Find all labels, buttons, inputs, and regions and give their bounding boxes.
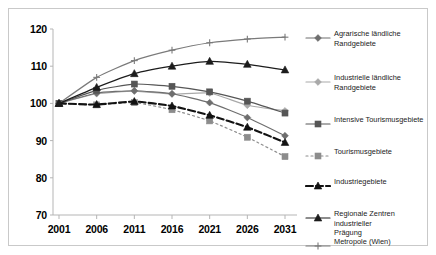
legend-label-line: Metropole (Wien) (334, 237, 391, 247)
x-tick-2026: 2026 (227, 223, 267, 235)
figure-frame: 120110100908070 200120062011201620212026… (8, 8, 428, 246)
plot-area: 120110100908070 200120062011201620212026… (19, 15, 299, 241)
legend-label-line: Industrielle ländliche (334, 73, 401, 83)
chart-page: 120110100908070 200120062011201620212026… (0, 0, 436, 255)
legend-label-line: Regionale Zentren industrieller (334, 209, 433, 228)
legend-item-5: Industriegebiete (305, 177, 433, 190)
legend-label-line: Intensive Tourismusgebiete (334, 115, 423, 125)
x-tick-2021: 2021 (190, 223, 230, 235)
legend-label: Industriegebiete (331, 177, 387, 187)
legend-label: Regionale Zentren industriellerPrägung (331, 209, 433, 238)
legend-label: Tourismusgebiete (331, 147, 392, 157)
legend-label: Metropole (Wien) (331, 237, 391, 247)
legend-label: Agrarische ländlicheRandgebiete (331, 29, 401, 48)
legend-label-line: Randgebiete (334, 39, 401, 49)
legend-label-line: Tourismusgebiete (334, 147, 392, 157)
legend-marker-square-icon (305, 116, 331, 128)
y-tick-80: 80 (21, 172, 47, 184)
y-tick-70: 70 (21, 209, 47, 221)
x-tick-2016: 2016 (152, 223, 192, 235)
x-tick-2031: 2031 (265, 223, 305, 235)
series-5 (55, 98, 289, 146)
legend-marker-plus-icon (305, 238, 331, 250)
legend-label: Intensive Tourismusgebiete (331, 115, 423, 125)
legend-label-line: Industriegebiete (334, 177, 387, 187)
legend-item-3: Intensive Tourismusgebiete (305, 115, 433, 128)
legend-item-4: Tourismusgebiete (305, 147, 433, 160)
legend-label-line: Randgebiete (334, 83, 401, 93)
legend-item-6: Regionale Zentren industriellerPrägung (305, 209, 433, 238)
legend-label-line: Agrarische ländliche (334, 29, 401, 39)
legend-item-1: Agrarische ländlicheRandgebiete (305, 29, 433, 48)
y-tick-120: 120 (21, 23, 47, 35)
legend-marker-triangle-icon (305, 178, 331, 190)
x-tick-2001: 2001 (39, 223, 79, 235)
chart-canvas (19, 15, 299, 241)
x-tick-2006: 2006 (77, 223, 117, 235)
legend-label: Industrielle ländlicheRandgebiete (331, 73, 401, 92)
legend-marker-square-icon (305, 148, 331, 160)
y-tick-110: 110 (21, 60, 47, 72)
legend-item-7: Metropole (Wien) (305, 237, 433, 250)
legend-marker-triangle-icon (305, 210, 331, 222)
y-tick-100: 100 (21, 97, 47, 109)
x-tick-2011: 2011 (114, 223, 154, 235)
legend-item-2: Industrielle ländlicheRandgebiete (305, 73, 433, 92)
legend-marker-diamond-icon (305, 30, 331, 42)
chart-legend: Agrarische ländlicheRandgebieteIndustrie… (305, 23, 433, 239)
legend-marker-diamond-icon (305, 74, 331, 86)
y-tick-90: 90 (21, 135, 47, 147)
